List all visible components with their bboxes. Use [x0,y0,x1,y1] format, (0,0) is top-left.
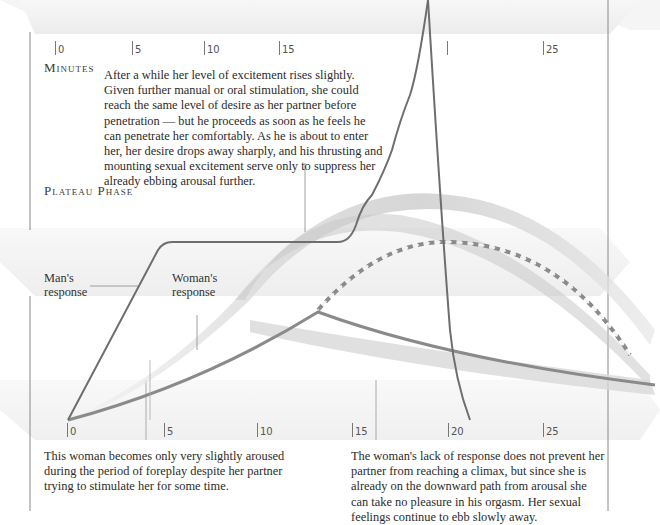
caption-bottom-right: The woman's lack of response does not pr… [351,449,606,525]
woman-response-label: Woman's response [172,271,217,299]
top-tick-20 [447,41,450,55]
woman-label-line1: Woman's [172,271,217,285]
caption-bottom-left: This woman becomes only very slightly ar… [44,449,304,495]
top-tick-0: 0 [55,41,64,55]
bottom-tick-20: 20 [448,423,464,437]
bottom-tick-15: 15 [352,423,368,437]
top-tick-5: 5 [132,41,141,55]
caption-top: After a while her level of excitement ri… [104,68,384,190]
man-response-label: Man's response [44,271,87,299]
man-label-line2: response [44,285,87,299]
top-tick-15: 15 [279,41,295,55]
man-label-line1: Man's [44,271,87,285]
bottom-tick-25: 25 [543,423,559,437]
bottom-tick-0: 0 [67,423,76,437]
top-tick-25: 25 [543,41,559,55]
top-tick-10: 10 [204,41,220,55]
bottom-tick-5: 5 [164,423,173,437]
top-ribbon [20,0,640,34]
minutes-label: Minutes [44,60,95,76]
woman-label-line2: response [172,285,217,299]
bottom-tick-10: 10 [257,423,273,437]
phase-title: Plateau Phase [44,183,133,199]
